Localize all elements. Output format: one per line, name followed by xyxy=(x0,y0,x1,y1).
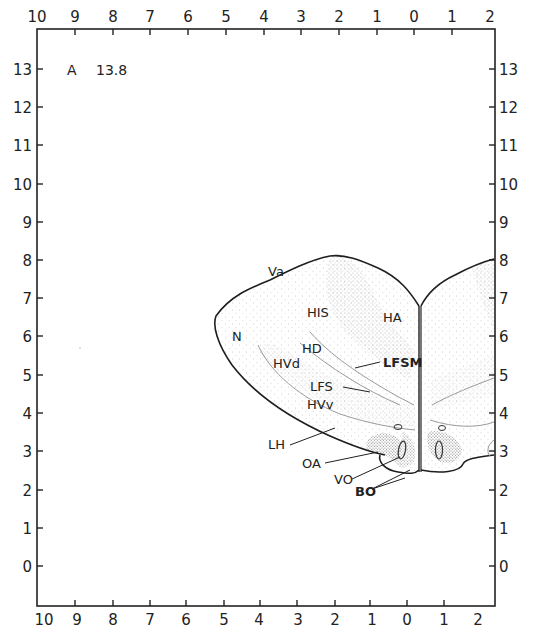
right-tick-label: 1 xyxy=(499,520,509,538)
top-axis: 10 9 8 7 6 5 4 3 2 1 0 1 2 xyxy=(27,8,494,35)
left-axis: 13 12 11 10 9 8 7 6 5 4 3 2 1 0 xyxy=(13,61,43,576)
stray-mark xyxy=(79,347,80,348)
label-n: N xyxy=(232,329,242,344)
label-oa: OA xyxy=(302,456,321,471)
label-lfsm: LFSM xyxy=(383,355,422,370)
label-hvd: HVd xyxy=(273,356,300,371)
section-prefix: A xyxy=(67,62,77,78)
bottom-tick-label: 2 xyxy=(330,611,340,629)
right-tick-label: 6 xyxy=(499,328,509,346)
right-tick-label: 9 xyxy=(499,214,509,232)
bottom-tick-label: 5 xyxy=(219,611,229,629)
label-va: Va xyxy=(268,264,284,279)
top-tick-label: 10 xyxy=(27,8,46,26)
left-tick-label: 10 xyxy=(13,176,32,194)
bottom-tick-label: 8 xyxy=(108,611,118,629)
top-tick-label: 4 xyxy=(259,8,269,26)
left-tick-label: 5 xyxy=(22,367,32,385)
label-lh: LH xyxy=(268,437,285,452)
label-vo: VO xyxy=(334,472,353,487)
section-value: 13.8 xyxy=(96,62,127,78)
top-tick-label: 6 xyxy=(183,8,193,26)
left-tick-label: 6 xyxy=(22,328,32,346)
top-tick-label: 8 xyxy=(108,8,118,26)
right-tick-label: 11 xyxy=(499,137,518,155)
left-tick-label: 9 xyxy=(22,214,32,232)
right-hemisphere xyxy=(421,259,494,472)
bottom-tick-label: 0 xyxy=(402,611,412,629)
bottom-tick-label: 1 xyxy=(367,611,377,629)
right-tick-label: 12 xyxy=(499,99,518,117)
right-tick-label: 4 xyxy=(499,405,509,423)
label-his: HIS xyxy=(307,305,329,320)
top-tick-label: 2 xyxy=(334,8,344,26)
right-tick-label: 5 xyxy=(499,367,509,385)
right-tick-label: 3 xyxy=(499,443,509,461)
left-tick-label: 2 xyxy=(22,482,32,500)
top-tick-label: 7 xyxy=(145,8,155,26)
right-tick-label: 13 xyxy=(499,61,518,79)
right-tick-label: 2 xyxy=(499,482,509,500)
top-tick-label: 0 xyxy=(409,8,419,26)
left-tick-label: 0 xyxy=(22,558,32,576)
right-tick-label: 0 xyxy=(499,558,509,576)
bottom-tick-label: 10 xyxy=(34,611,53,629)
left-tick-label: 7 xyxy=(22,290,32,308)
label-hd: HD xyxy=(302,341,322,356)
top-tick-label: 1 xyxy=(372,8,382,26)
top-tick-label: 3 xyxy=(296,8,306,26)
bottom-tick-label: 1 xyxy=(439,611,449,629)
label-ha: HA xyxy=(383,310,402,325)
bottom-tick-label: 9 xyxy=(72,611,82,629)
left-tick-label: 12 xyxy=(13,99,32,117)
left-tick-label: 3 xyxy=(22,443,32,461)
top-tick-label: 1 xyxy=(447,8,457,26)
left-tick-label: 8 xyxy=(22,252,32,270)
left-tick-label: 13 xyxy=(13,61,32,79)
bottom-tick-label: 3 xyxy=(293,611,303,629)
bottom-tick-label: 4 xyxy=(254,611,264,629)
left-tick-label: 1 xyxy=(22,520,32,538)
bottom-tick-label: 7 xyxy=(145,611,155,629)
right-tick-label: 10 xyxy=(499,176,518,194)
top-tick-label: 9 xyxy=(70,8,80,26)
brain-atlas-plate: 10 9 8 7 6 5 4 3 2 1 0 1 2 10 9 8 7 6 5 … xyxy=(0,0,539,639)
bottom-tick-label: 6 xyxy=(181,611,191,629)
right-tick-label: 8 xyxy=(499,252,509,270)
right-tick-label: 7 xyxy=(499,290,509,308)
top-tick-label: 5 xyxy=(221,8,231,26)
left-tick-label: 4 xyxy=(22,405,32,423)
label-hvv: HVv xyxy=(307,397,334,412)
label-bo: BO xyxy=(355,484,376,499)
label-lfs: LFS xyxy=(310,379,333,394)
left-tick-label: 11 xyxy=(13,137,32,155)
bottom-tick-label: 2 xyxy=(473,611,483,629)
top-tick-label: 2 xyxy=(485,8,495,26)
bottom-axis: 10 9 8 7 6 5 4 3 2 1 0 1 2 xyxy=(34,600,482,629)
